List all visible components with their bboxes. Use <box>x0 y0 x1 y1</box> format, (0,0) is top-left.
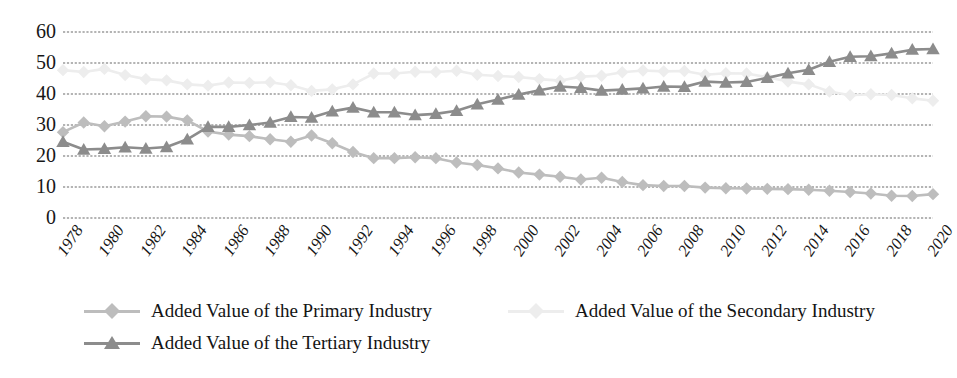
y-tick-label: 40 <box>36 83 56 103</box>
data-point-marker <box>471 159 483 171</box>
data-point-marker <box>658 180 670 192</box>
data-point-marker <box>678 180 690 192</box>
data-point-marker <box>56 135 69 147</box>
data-point-marker <box>927 95 939 107</box>
data-point-marker <box>823 185 835 197</box>
data-point-marker <box>927 188 939 200</box>
x-tick-label: 1984 <box>178 222 211 259</box>
x-tick-label: 1992 <box>344 222 377 259</box>
y-tick-label: 10 <box>36 176 56 196</box>
data-point-marker <box>865 187 877 199</box>
x-tick-label: 2012 <box>758 222 791 259</box>
data-point-marker <box>223 76 235 88</box>
chart-legend: Added Value of the Primary Industry Adde… <box>0 296 945 378</box>
data-point-marker <box>305 129 317 141</box>
data-point-marker <box>119 115 131 127</box>
data-point-marker <box>844 186 856 198</box>
data-point-marker <box>430 152 442 164</box>
x-tick-label: 2000 <box>509 222 542 259</box>
data-point-marker <box>616 176 628 188</box>
data-point-marker <box>637 179 649 191</box>
data-point-marker <box>285 79 297 91</box>
data-point-marker <box>533 168 545 180</box>
x-tick-label: 1996 <box>426 222 459 259</box>
x-tick-label: 1988 <box>261 222 294 259</box>
data-point-marker <box>720 182 732 194</box>
data-point-marker <box>885 189 897 201</box>
data-point-marker <box>616 66 628 78</box>
legend-item-tertiary[interactable]: Added Value of the Tertiary Industry <box>84 328 430 358</box>
data-point-marker <box>906 190 918 202</box>
y-tick-label: 30 <box>36 114 56 134</box>
data-point-marker <box>885 89 897 101</box>
data-point-marker <box>450 65 462 77</box>
data-point-marker <box>513 71 525 83</box>
x-tick-label: 2014 <box>799 222 832 259</box>
data-point-marker <box>368 152 380 164</box>
y-axis-labels: 0102030405060 <box>0 0 56 240</box>
data-point-marker <box>409 151 421 163</box>
data-point-marker <box>388 152 400 164</box>
data-point-marker <box>575 173 587 185</box>
data-point-marker <box>575 70 587 82</box>
data-point-marker <box>346 101 359 113</box>
y-tick-label: 50 <box>36 52 56 72</box>
data-point-marker <box>160 74 172 86</box>
data-point-marker <box>492 70 504 82</box>
data-point-marker <box>533 73 545 85</box>
x-tick-label: 1986 <box>219 222 252 259</box>
data-point-marker <box>78 116 90 128</box>
x-tick-label: 1978 <box>54 222 87 259</box>
data-point-marker <box>285 136 297 148</box>
data-point-marker <box>202 79 214 91</box>
y-tick-label: 20 <box>36 145 56 165</box>
data-point-marker <box>181 114 193 126</box>
x-tick-label: 2010 <box>716 222 749 259</box>
data-point-marker <box>699 181 711 193</box>
data-point-marker <box>368 67 380 79</box>
data-point-marker <box>554 171 566 183</box>
legend-label-tertiary: Added Value of the Tertiary Industry <box>151 332 430 354</box>
data-point-marker <box>513 166 525 178</box>
legend-label-secondary: Added Value of the Secondary Industry <box>575 300 875 322</box>
data-point-marker <box>78 66 90 78</box>
data-point-marker <box>140 73 152 85</box>
x-tick-label: 2002 <box>551 222 584 259</box>
data-point-marker <box>865 88 877 100</box>
line-chart-svg <box>0 0 945 240</box>
data-point-marker <box>160 110 172 122</box>
data-point-marker <box>844 89 856 101</box>
data-point-marker <box>471 69 483 81</box>
x-tick-label: 2020 <box>924 222 957 259</box>
data-point-marker <box>243 130 255 142</box>
data-point-marker <box>740 182 752 194</box>
data-point-marker <box>119 69 131 81</box>
data-point-marker <box>803 78 815 90</box>
data-point-marker <box>595 70 607 82</box>
data-point-marker <box>782 183 794 195</box>
data-point-marker <box>98 63 110 75</box>
data-point-marker <box>347 78 359 90</box>
data-point-marker <box>98 120 110 132</box>
legend-item-primary[interactable]: Added Value of the Primary Industry <box>84 296 432 326</box>
data-point-marker <box>305 85 317 97</box>
x-tick-label: 1982 <box>136 222 169 259</box>
y-tick-label: 60 <box>36 21 56 41</box>
data-point-marker <box>906 92 918 104</box>
x-tick-label: 2008 <box>675 222 708 259</box>
data-point-marker <box>264 133 276 145</box>
x-tick-label: 1998 <box>468 222 501 259</box>
data-point-marker <box>409 65 421 77</box>
data-point-marker <box>492 162 504 174</box>
data-point-marker <box>637 64 649 76</box>
x-tick-label: 2004 <box>592 222 625 259</box>
legend-item-secondary[interactable]: Added Value of the Secondary Industry <box>508 296 875 326</box>
legend-key-primary-diamond-icon <box>84 301 140 321</box>
data-point-marker <box>181 133 194 145</box>
legend-label-primary: Added Value of the Primary Industry <box>151 300 432 322</box>
data-point-marker <box>761 183 773 195</box>
series-tertiary <box>56 42 939 154</box>
plot-area <box>0 0 945 240</box>
x-tick-label: 2006 <box>634 222 667 259</box>
x-tick-label: 1990 <box>302 222 335 259</box>
